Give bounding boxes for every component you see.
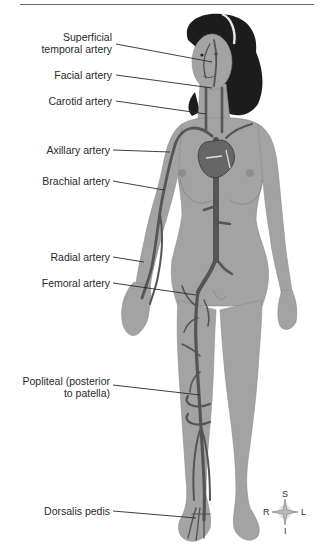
compass-right: R: [263, 507, 270, 517]
label-femoral-artery: Femoral artery: [42, 277, 110, 289]
leader-brachial: [113, 181, 164, 190]
label-brachial-artery: Brachial artery: [42, 175, 110, 187]
label-facial-artery: Facial artery: [54, 69, 112, 81]
label-line-2: to patella): [22, 387, 110, 399]
leader-radial: [113, 257, 144, 262]
label-carotid-artery: Carotid artery: [48, 95, 112, 107]
label-axillary-artery: Axillary artery: [46, 144, 110, 156]
label-superficial-temporal-artery: Superficial temporal artery: [41, 31, 112, 55]
label-dorsalis-pedis: Dorsalis pedis: [44, 505, 110, 517]
label-line-1: Popliteal (posterior: [22, 375, 110, 387]
compass-inferior: I: [284, 526, 287, 536]
label-popliteal: Popliteal (posterior to patella): [22, 375, 110, 399]
label-line-2: temporal artery: [41, 43, 112, 55]
leader-axillary: [113, 150, 170, 152]
label-line-1: Superficial: [41, 31, 112, 43]
compass-left: L: [301, 507, 306, 517]
compass-rose-icon: [272, 499, 298, 525]
compass-superior: S: [282, 489, 288, 499]
label-radial-artery: Radial artery: [50, 251, 110, 263]
